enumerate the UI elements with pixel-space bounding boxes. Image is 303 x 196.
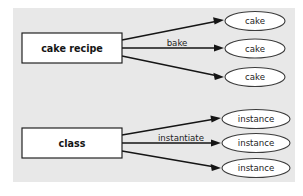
node-class-label: class <box>59 138 86 149</box>
node-cake-recipe-label: cake recipe <box>41 43 103 54</box>
edge-label-bake: bake <box>167 38 188 48</box>
node-cake-1-label: cake <box>245 16 265 26</box>
node-instance-2-label: instance <box>238 138 274 148</box>
node-cake-2-label: cake <box>245 44 265 54</box>
node-instance-1-label: instance <box>238 114 274 124</box>
diagram-canvas: cake recipe bake cake cake cake class in… <box>0 0 303 196</box>
node-instance-3-label: instance <box>238 163 274 173</box>
analogy-diagram: cake recipe bake cake cake cake class in… <box>0 0 303 196</box>
edge-label-instantiate: instantiate <box>158 133 204 143</box>
node-cake-3-label: cake <box>245 72 265 82</box>
